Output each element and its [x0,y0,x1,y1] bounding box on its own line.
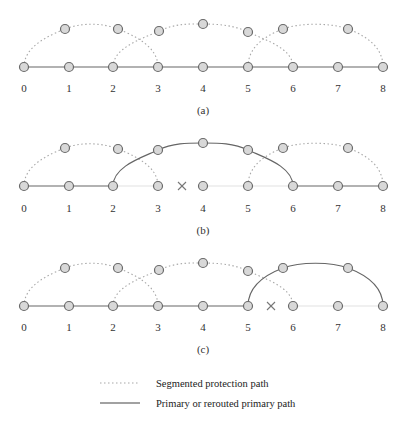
protection-node [114,145,123,154]
node-3 [154,302,163,311]
node-label: 3 [155,82,161,94]
protection-path [24,263,158,306]
protection-node [244,28,253,37]
link-failure-x-icon [178,182,186,190]
protection-node [279,25,288,34]
node-label: 2 [110,321,116,333]
panel-b: 012345678(b) [20,139,388,238]
legend-item-primary: Primary or rerouted primary path [100,398,296,409]
protection-node [244,267,253,276]
node-label: 5 [245,202,251,214]
node-label: 0 [21,82,27,94]
node-4 [199,302,208,311]
node-8 [379,182,388,191]
node-5 [244,63,253,72]
node-label: 8 [380,321,386,333]
node-label: 6 [290,202,296,214]
node-8 [379,302,388,311]
legend: Segmented protection path Primary or rer… [100,378,296,409]
protection-node [154,146,163,155]
node-label: 2 [110,202,116,214]
protection-node [114,264,123,273]
node-label: 7 [335,82,341,94]
node-5 [244,182,253,191]
node-0 [20,302,29,311]
protection-node [199,20,208,29]
node-0 [20,63,29,72]
node-4 [199,63,208,72]
node-label: 1 [66,82,72,94]
node-label: 2 [110,82,116,94]
protection-node [155,27,164,36]
node-label: 5 [245,82,251,94]
node-4 [199,182,208,191]
node-0 [20,182,29,191]
protection-path [113,24,293,67]
node-6 [289,302,298,311]
node-3 [154,182,163,191]
node-label: 4 [200,202,206,214]
node-3 [154,63,163,72]
node-label: 4 [200,82,206,94]
node-1 [65,182,74,191]
node-label: 8 [380,202,386,214]
node-7 [334,182,343,191]
protection-node [61,264,70,273]
legend-item-protection: Segmented protection path [100,378,269,389]
protection-path [248,24,383,67]
protection-node [199,139,208,148]
node-7 [334,63,343,72]
node-label: 1 [66,321,72,333]
protection-node [61,144,70,153]
node-label: 7 [335,202,341,214]
protection-path [24,24,158,67]
node-label: 3 [155,321,161,333]
node-label: 0 [21,321,27,333]
panel-c: 012345678(c) [20,259,388,357]
node-5 [244,302,253,311]
node-2 [109,182,118,191]
node-1 [65,302,74,311]
protection-path [24,144,158,186]
node-label: 4 [200,321,206,333]
panel-caption: (a) [197,104,210,117]
node-label: 0 [21,202,27,214]
node-label: 6 [290,321,296,333]
node-label: 6 [290,82,296,94]
diagram-panels: 012345678(a)012345678(b)012345678(c) [20,20,388,357]
panel-a: 012345678(a) [20,20,388,118]
node-label: 8 [380,82,386,94]
protection-path [113,263,293,306]
link-failure-x-icon [267,302,275,310]
node-6 [289,63,298,72]
protection-node [114,25,123,34]
node-6 [289,182,298,191]
rerouted-primary-path [248,263,383,306]
protection-node [344,264,353,273]
node-2 [109,63,118,72]
node-1 [65,63,74,72]
rerouted-primary-path [113,143,293,186]
protection-node [155,266,164,275]
node-2 [109,302,118,311]
protection-path [248,143,383,186]
node-label: 1 [66,202,72,214]
protection-node [344,144,353,153]
node-label: 5 [245,321,251,333]
protection-node [244,146,253,155]
protection-node [199,259,208,268]
segmented-protection-diagram: 012345678(a)012345678(b)012345678(c) Seg… [0,0,408,430]
panel-caption: (b) [197,224,210,237]
protection-node [344,25,353,34]
legend-label: Segmented protection path [156,378,269,389]
protection-node [61,25,70,34]
node-label: 7 [335,321,341,333]
panel-caption: (c) [197,343,210,356]
node-7 [334,302,343,311]
legend-label: Primary or rerouted primary path [156,398,296,409]
protection-node [279,264,288,273]
protection-node [279,144,288,153]
node-8 [379,63,388,72]
node-label: 3 [155,202,161,214]
